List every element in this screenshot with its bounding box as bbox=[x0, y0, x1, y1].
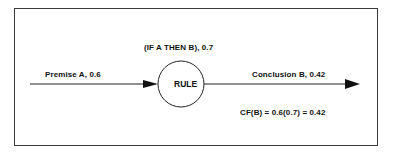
rule-node-label: RULE bbox=[174, 79, 197, 89]
formula-label: CF(B) = 0.6(0.7) = 0.42 bbox=[240, 108, 325, 117]
conclusion-label: Conclusion B, 0.42 bbox=[252, 70, 325, 79]
premise-label: Premise A, 0.6 bbox=[45, 70, 101, 79]
rule-condition-label: (IF A THEN B), 0.7 bbox=[144, 43, 213, 52]
premise-arrow-head-icon bbox=[143, 80, 158, 88]
conclusion-arrow-head-icon bbox=[345, 79, 360, 89]
